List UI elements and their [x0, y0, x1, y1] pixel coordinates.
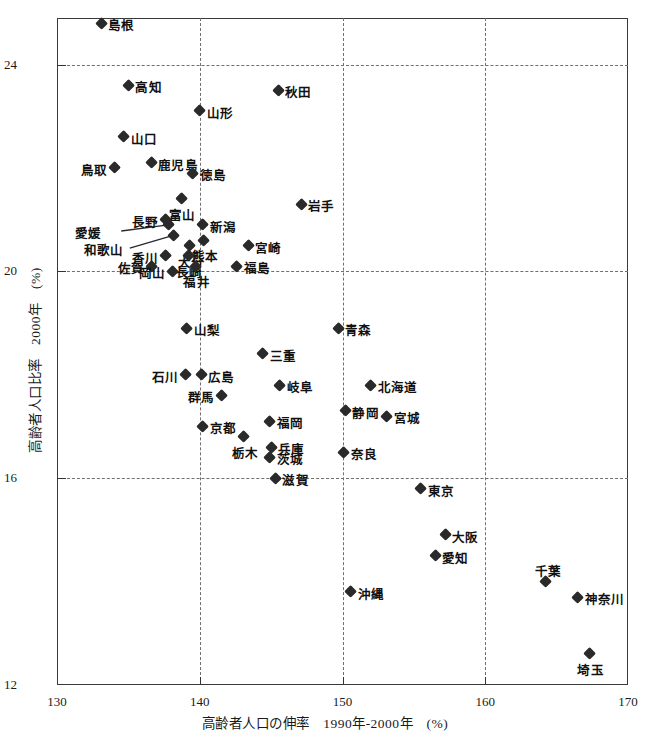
y-tick-mark [57, 65, 66, 66]
data-point-label: 秋田 [285, 82, 311, 101]
diamond-marker-icon [179, 368, 192, 381]
data-point-label: 埼玉 [577, 660, 603, 679]
y-gridline [57, 478, 628, 479]
diamond-marker-icon [180, 322, 193, 335]
diamond-marker-icon [118, 130, 131, 143]
data-point-label: 宮城 [394, 408, 420, 427]
diamond-marker-icon [256, 348, 269, 361]
data-point-label: 滋賀 [282, 470, 308, 489]
leader-line [130, 235, 174, 248]
data-point-label: 沖縄 [358, 584, 384, 603]
x-tick-label: 140 [177, 694, 223, 710]
data-point-label: 富山 [169, 205, 195, 224]
data-point-label: 福島 [244, 258, 270, 277]
x-gridline [485, 18, 486, 685]
diamond-marker-icon [429, 549, 442, 562]
data-point-label: 新潟 [210, 217, 236, 236]
diamond-marker-icon [175, 192, 188, 205]
diamond-marker-icon [215, 389, 228, 402]
x-tick-label: 130 [34, 694, 80, 710]
diamond-marker-icon [168, 229, 181, 242]
data-point-label: 北海道 [378, 377, 418, 396]
y-tick-label: 20 [0, 263, 17, 279]
data-point-label: 鳥取 [81, 160, 107, 179]
data-point-label: 栃木 [232, 443, 258, 462]
data-point-label: 千葉 [535, 561, 561, 580]
plot-area: 島根高知秋田山形山口鹿児島鳥取徳島富山岩手長野新潟熊本大分宮崎香川長崎佐賀福井岡… [57, 18, 628, 685]
diamond-marker-icon [196, 218, 209, 231]
y-tick-label: 24 [0, 57, 17, 73]
diamond-marker-icon [242, 239, 255, 252]
diamond-marker-icon [583, 647, 596, 660]
data-point-label: 茨城 [277, 449, 303, 468]
y-axis-title: 高齢者人口比率 2000年 (%) [24, 230, 44, 490]
diamond-marker-icon [195, 368, 208, 381]
diamond-marker-icon [337, 446, 350, 459]
diamond-marker-icon [263, 451, 276, 464]
y-tick-mark [57, 271, 66, 272]
diamond-marker-icon [193, 105, 206, 118]
y-tick-mark [57, 478, 66, 479]
diamond-marker-icon [238, 430, 251, 443]
y-tick-label: 12 [0, 677, 17, 693]
x-tick-label: 160 [462, 694, 508, 710]
diamond-marker-icon [108, 161, 121, 174]
diamond-marker-icon [295, 198, 308, 211]
data-point-label: 京都 [210, 418, 236, 437]
diamond-marker-icon [145, 156, 158, 169]
y-tick-label: 16 [0, 470, 17, 486]
diamond-marker-icon [269, 472, 282, 485]
data-point-label: 青森 [345, 320, 371, 339]
x-tick-mark [343, 677, 344, 685]
scatter-chart-figure: 島根高知秋田山形山口鹿児島鳥取徳島富山岩手長野新潟熊本大分宮崎香川長崎佐賀福井岡… [0, 0, 650, 745]
diamond-marker-icon [95, 17, 108, 30]
data-point-label: 島根 [108, 15, 134, 34]
data-point-label: 奈良 [351, 444, 377, 463]
data-point-label: 神奈川 [585, 589, 625, 608]
data-point-label: 和歌山 [84, 240, 124, 259]
diamond-marker-icon [572, 591, 585, 604]
diamond-marker-icon [339, 404, 352, 417]
data-point-label: 岡山 [139, 263, 165, 282]
x-gridline [343, 18, 344, 685]
data-point-label: 山口 [131, 129, 157, 148]
data-point-label: 石川 [152, 367, 178, 386]
y-gridline [57, 65, 628, 66]
diamond-marker-icon [439, 529, 452, 542]
data-point-label: 大阪 [452, 527, 478, 546]
data-point-label: 三重 [270, 346, 296, 365]
data-point-label: 福井 [183, 272, 209, 291]
data-point-label: 山梨 [194, 320, 220, 339]
diamond-marker-icon [273, 379, 286, 392]
x-tick-label: 150 [320, 694, 366, 710]
diamond-marker-icon [345, 585, 358, 598]
data-point-label: 長野 [132, 212, 158, 231]
diamond-marker-icon [365, 379, 378, 392]
diamond-marker-icon [263, 415, 276, 428]
x-tick-mark [200, 677, 201, 685]
data-point-label: 宮崎 [255, 238, 281, 257]
data-point-label: 岩手 [308, 196, 334, 215]
data-point-label: 岐阜 [287, 377, 313, 396]
data-point-label: 広島 [208, 367, 234, 386]
diamond-marker-icon [272, 84, 285, 97]
data-point-label: 福岡 [277, 413, 303, 432]
data-point-label: 愛知 [442, 548, 468, 567]
diamond-marker-icon [122, 79, 135, 92]
diamond-marker-icon [415, 482, 428, 495]
diamond-marker-icon [159, 249, 172, 262]
data-point-label: 東京 [428, 481, 454, 500]
diamond-marker-icon [380, 410, 393, 423]
x-tick-mark [485, 677, 486, 685]
diamond-marker-icon [196, 420, 209, 433]
x-axis-title: 高齢者人口の伸率 1990年-2000年 (%) [0, 712, 650, 732]
data-point-label: 山形 [207, 103, 233, 122]
data-point-label: 群馬 [188, 387, 214, 406]
data-point-label: 高知 [135, 77, 161, 96]
data-point-label: 徳島 [200, 165, 226, 184]
data-point-label: 静岡 [352, 403, 378, 422]
x-tick-label: 170 [605, 694, 650, 710]
x-gridline [200, 18, 201, 685]
